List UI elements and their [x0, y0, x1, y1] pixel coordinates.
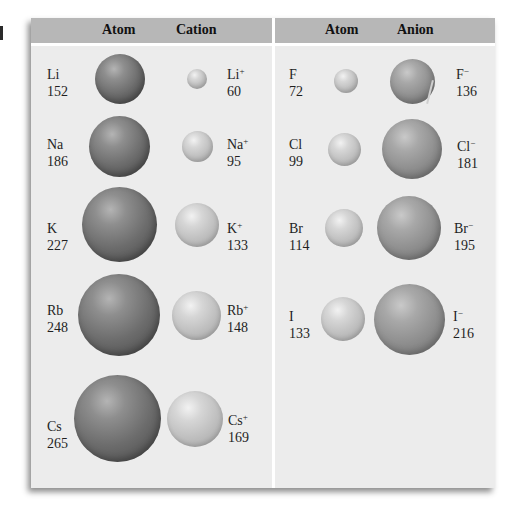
atom-sphere-na	[89, 116, 150, 177]
header-atom-left: Atom	[102, 22, 135, 38]
atom-label-i: I 133	[289, 308, 310, 342]
cation-label-li: Li+ 60	[227, 66, 245, 100]
cation-sphere-rb	[172, 291, 221, 340]
header-cation: Cation	[176, 22, 216, 38]
anion-sphere-i	[374, 284, 445, 355]
header-atom-right: Atom	[325, 22, 358, 38]
atom-label-li: Li 152	[47, 66, 68, 100]
atom-label-k: K 227	[47, 220, 68, 254]
atom-label-f: F 72	[289, 66, 303, 100]
cation-sphere-k	[175, 203, 219, 247]
atom-label-cl: Cl 99	[289, 136, 303, 170]
atom-sphere-br	[325, 209, 363, 247]
ionic-radii-figure: Atom Cation Atom Anion Li 152 Li+ 60 Na …	[31, 18, 495, 488]
cation-sphere-cs	[167, 391, 223, 447]
cation-label-k: K+ 133	[227, 220, 248, 254]
atom-sphere-li	[95, 54, 145, 104]
atom-label-br: Br 114	[289, 220, 309, 254]
anion-label-i: I− 216	[453, 308, 474, 342]
cation-sphere-na	[182, 131, 213, 162]
cation-sphere-li	[187, 69, 207, 89]
atom-sphere-f	[334, 69, 358, 93]
atom-label-cs: Cs 265	[47, 418, 68, 452]
cation-label-na: Na+ 95	[227, 136, 248, 170]
atom-label-na: Na 186	[47, 136, 68, 170]
header-separator	[31, 43, 495, 46]
page-edge-mark	[0, 26, 3, 40]
header-anion: Anion	[397, 22, 434, 38]
cation-label-cs: Cs+ 169	[228, 412, 249, 446]
anion-label-br: Br− 195	[454, 220, 475, 254]
anion-sphere-cl	[382, 119, 442, 179]
atom-label-rb: Rb 248	[47, 302, 68, 336]
cation-label-rb: Rb+ 148	[227, 302, 248, 336]
atom-sphere-k	[82, 187, 157, 262]
anion-sphere-br	[377, 196, 441, 260]
atom-sphere-i	[321, 297, 365, 341]
anion-label-cl: Cl− 181	[457, 138, 478, 172]
atom-sphere-rb	[78, 274, 160, 356]
atom-sphere-cl	[328, 133, 361, 166]
column-divider	[272, 18, 275, 488]
anion-label-f: F− 136	[456, 66, 477, 100]
atom-sphere-cs	[74, 375, 161, 462]
